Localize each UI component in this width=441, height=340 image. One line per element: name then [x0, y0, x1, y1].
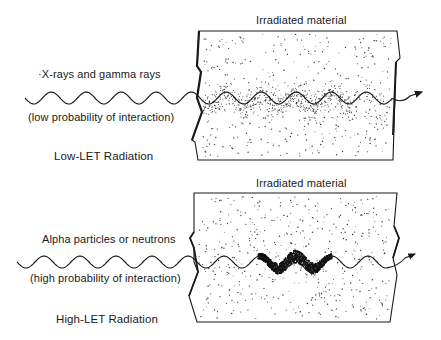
material-label-low-let: Irradiated material: [256, 14, 347, 26]
material-block-low-let: [192, 31, 400, 160]
high-let-panel: [17, 193, 415, 322]
diagram-canvas: [0, 0, 441, 340]
panel-title-high-let: High-LET Radiation: [56, 313, 158, 325]
low-let-panel: [25, 31, 422, 160]
material-label-high-let: Irradiated material: [256, 177, 347, 189]
radiation-label-high-let: Alpha particles or neutrons: [42, 233, 176, 245]
radiation-label-low-let: ·X-rays and gamma rays: [38, 68, 161, 80]
probability-label-high-let: (high probability of interaction): [30, 272, 181, 284]
panel-title-low-let: Low-LET Radiation: [54, 150, 153, 162]
probability-label-low-let: (low probability of interaction): [28, 111, 174, 123]
